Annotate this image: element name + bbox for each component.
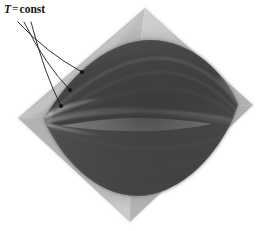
annotation-equals: =	[11, 3, 20, 15]
isotherm-annotation-label: T=const	[4, 4, 45, 16]
lens-interior	[36, 38, 256, 204]
thermodynamic-surface-figure	[0, 0, 267, 231]
thermo-surface-group	[36, 38, 256, 204]
lens-center-shade	[52, 54, 244, 186]
annotation-value: const	[20, 3, 46, 15]
leader-arrowhead-3	[59, 104, 63, 108]
leader-arrowhead-2	[68, 88, 72, 92]
figure-container: T=const	[0, 0, 267, 231]
leader-arrowhead-1	[80, 70, 84, 74]
annotation-symbol: T	[4, 3, 11, 15]
